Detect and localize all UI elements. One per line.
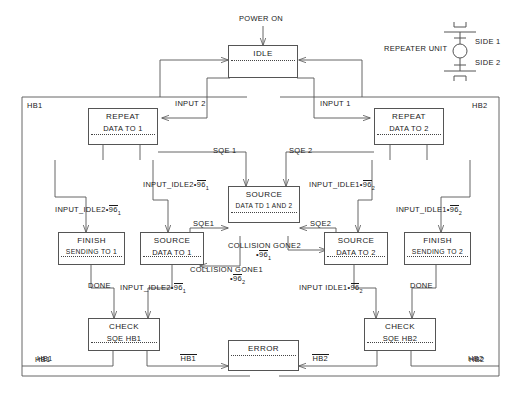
label-collision-gone2-tail: •96 bbox=[256, 250, 268, 259]
label-collision-gone1-tail: •96 bbox=[230, 274, 242, 283]
finish1-divider bbox=[61, 256, 122, 257]
label-collision-gone2: COLLISION GONE2 •961 bbox=[228, 241, 301, 261]
state-check2-title: CHECK bbox=[365, 322, 435, 331]
label-idle1-right-sub: 2 bbox=[459, 210, 462, 216]
label-region-hb1-top: HB1 bbox=[27, 101, 43, 110]
state-error-label: ERROR bbox=[229, 344, 298, 353]
label-idle2-left-sub: 1 bbox=[118, 210, 121, 216]
state-source-data-to-2[interactable]: SOURCE DATA TO 2 bbox=[324, 232, 388, 265]
label-input-idle2-96-1-lower: INPUT_IDLE2•961 bbox=[120, 283, 186, 294]
label-idle2-upper-sub: 1 bbox=[206, 185, 209, 191]
state-check1-subtitle: SQE HB1 bbox=[89, 334, 159, 343]
label-idle2-upper-text: INPUT_IDLE2•96 bbox=[143, 180, 206, 189]
state-finish1-title: FINISH bbox=[59, 236, 124, 245]
label-idle1-lower-sub: 2 bbox=[359, 288, 362, 294]
label-done-right: DONE bbox=[410, 281, 433, 290]
state-source2-subtitle: DATA TO 2 bbox=[325, 248, 387, 257]
label-collision-gone1-text: COLLISION GONE1 bbox=[190, 265, 263, 274]
diagram-canvas: IDLE REPEAT DATA TO 1 REPEAT DATA TO 2 S… bbox=[0, 0, 521, 400]
source-both-divider bbox=[231, 212, 297, 213]
state-finish2-title: FINISH bbox=[405, 236, 470, 245]
label-input-idle1-96-2-right: INPUT_IDLE1•962 bbox=[396, 205, 462, 216]
state-repeat-data-to-2[interactable]: REPEAT DATA TO 2 bbox=[374, 108, 444, 145]
state-source-data-to-1-and-2[interactable]: SOURCE DATA TD 1 AND 2 bbox=[228, 186, 300, 223]
repeater-unit-icon bbox=[440, 18, 480, 90]
idle-divider bbox=[231, 60, 295, 61]
label-idle2-lower-sub: 1 bbox=[183, 288, 186, 294]
state-error[interactable]: ERROR bbox=[228, 340, 299, 371]
label-collision-gone2-sub: 1 bbox=[268, 255, 271, 261]
repeat2-divider bbox=[377, 134, 441, 135]
state-check2-subtitle: SQE HB2 bbox=[365, 334, 435, 343]
state-idle-label: IDLE bbox=[229, 49, 297, 58]
state-check1-title: CHECK bbox=[89, 322, 159, 331]
label-hb2-plain: HB2 bbox=[468, 354, 484, 363]
label-input-1: INPUT 1 bbox=[320, 99, 351, 108]
label-input-idle1-96-2-upper: INPUT_IDLE1•962 bbox=[309, 180, 375, 191]
state-idle[interactable]: IDLE bbox=[228, 45, 298, 78]
state-source-both-subtitle: DATA TD 1 AND 2 bbox=[229, 202, 299, 209]
label-hb1-plain: HB1 bbox=[37, 354, 53, 363]
state-source-data-to-1[interactable]: SOURCE DATA TO 1 bbox=[140, 232, 204, 265]
label-sqe2: SQE2 bbox=[310, 219, 331, 228]
label-input-idle2-96-1-left: INPUT_IDLE2•961 bbox=[55, 205, 121, 216]
label-input-2: INPUT 2 bbox=[175, 99, 206, 108]
label-region-hb2-top: HB2 bbox=[472, 101, 488, 110]
state-finish1-subtitle: SENDING TO 1 bbox=[59, 248, 124, 255]
label-idle1-lower-text: INPUT IDLE1•96 bbox=[299, 283, 359, 292]
label-collision-gone1: COLLISION GONE1 •962 bbox=[190, 265, 263, 285]
state-source2-title: SOURCE bbox=[325, 236, 387, 245]
legend-caption: REPEATER UNIT bbox=[384, 44, 447, 53]
state-source-both-title: SOURCE bbox=[229, 190, 299, 199]
state-check-sqe-hb1[interactable]: CHECK SQE HB1 bbox=[88, 318, 160, 351]
label-hb2-bar: HB2 bbox=[312, 354, 329, 363]
label-sqe-1: SQE 1 bbox=[213, 146, 237, 155]
state-finish2-subtitle: SENDING TO 2 bbox=[405, 248, 470, 255]
label-sqe1: SQE1 bbox=[193, 219, 214, 228]
repeat1-divider bbox=[91, 134, 155, 135]
state-repeat-data-to-1[interactable]: REPEAT DATA TO 1 bbox=[88, 108, 158, 145]
label-idle2-lower-text: INPUT_IDLE2•96 bbox=[120, 283, 183, 292]
label-input-idle2-96-1-upper: INPUT_IDLE2•961 bbox=[143, 180, 209, 191]
state-source1-title: SOURCE bbox=[141, 236, 203, 245]
label-idle1-upper-text: INPUT_IDLE1•96 bbox=[309, 180, 372, 189]
state-repeat2-title: REPEAT bbox=[375, 112, 443, 121]
label-hb2-bar-text: HB2 bbox=[312, 354, 329, 363]
label-input-idle1-96-2-lower: INPUT IDLE1•962 bbox=[299, 283, 363, 294]
label-idle1-right-text: INPUT_IDLE1•96 bbox=[396, 205, 459, 214]
state-finish-sending-to-2[interactable]: FINISH SENDING TO 2 bbox=[404, 232, 471, 265]
state-source1-subtitle: DATA TO 1 bbox=[141, 248, 203, 257]
label-idle2-left-text: INPUT_IDLE2•96 bbox=[55, 205, 118, 214]
label-collision-gone1-sub: 2 bbox=[242, 279, 245, 285]
error-divider bbox=[231, 355, 296, 356]
state-repeat2-subtitle: DATA TO 2 bbox=[375, 124, 443, 133]
label-done-left: DONE bbox=[88, 281, 111, 290]
label-hb1-bar: HB1 bbox=[180, 354, 197, 363]
state-repeat1-title: REPEAT bbox=[89, 112, 157, 121]
label-idle1-upper-sub: 2 bbox=[372, 185, 375, 191]
label-power-on: POWER ON bbox=[239, 14, 283, 23]
finish2-divider bbox=[407, 256, 468, 257]
label-sqe-2: SQE 2 bbox=[289, 146, 313, 155]
state-repeat1-subtitle: DATA TO 1 bbox=[89, 124, 157, 133]
state-finish-sending-to-1[interactable]: FINISH SENDING TO 1 bbox=[58, 232, 125, 265]
label-collision-gone2-text: COLLISION GONE2 bbox=[228, 241, 301, 250]
state-check-sqe-hb2[interactable]: CHECK SQE HB2 bbox=[364, 318, 436, 351]
label-hb1-bar-text: HB1 bbox=[180, 354, 197, 363]
